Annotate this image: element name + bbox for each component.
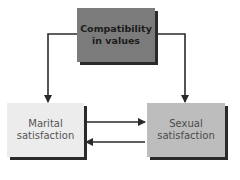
node-label: Sexual satisfaction: [157, 118, 215, 142]
node-label: Compatibility in values: [80, 23, 152, 47]
node-compatibility-in-values: Compatibility in values: [77, 8, 155, 62]
node-sexual-satisfaction: Sexual satisfaction: [147, 103, 225, 157]
node-label: Marital satisfaction: [17, 118, 75, 142]
edge-compatibility-to-sexual: [156, 34, 185, 102]
edge-compatibility-to-marital: [48, 34, 77, 102]
node-marital-satisfaction: Marital satisfaction: [7, 103, 84, 157]
